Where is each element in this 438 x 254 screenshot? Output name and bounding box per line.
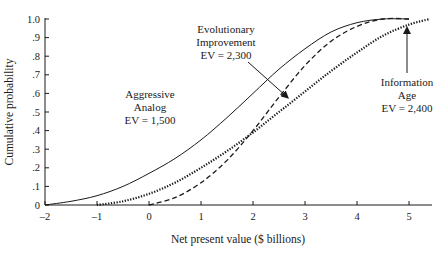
x-ticks: –2–1012345	[39, 201, 412, 222]
x-tick-label: –2	[39, 211, 51, 222]
annot-info-line1: Information	[381, 76, 434, 88]
x-axis-title: Net present value ($ billions)	[171, 233, 305, 246]
x-tick-label: 2	[250, 211, 255, 222]
x-tick-label: 4	[354, 211, 360, 222]
y-tick-label: .9	[32, 32, 40, 43]
y-tick-label: .8	[32, 51, 40, 62]
y-tick-label: .1	[32, 181, 40, 192]
y-tick-label: .6	[32, 88, 40, 99]
annot-agg-line1: Aggressive	[125, 88, 175, 100]
y-tick-label: .2	[32, 162, 40, 173]
x-tick-label: 0	[146, 211, 151, 222]
annotation-information-age: Information Age EV = 2,400	[381, 30, 434, 114]
x-tick-label: 5	[406, 211, 411, 222]
y-axis-title: Cumulative probability	[3, 58, 16, 165]
x-tick-label: 1	[198, 211, 203, 222]
annotation-evolutionary-improvement: Evolutionary Improvement EV = 2,300	[196, 23, 286, 96]
annotation-aggressive-analog: Aggressive Analog EV = 1,500	[125, 88, 176, 126]
y-tick-label: 0	[35, 200, 40, 211]
annot-evo-arrow-icon	[248, 62, 286, 96]
x-tick-label: –1	[91, 211, 103, 222]
annot-evo-line3: EV = 2,300	[201, 49, 252, 61]
cdf-chart: 0.1.2.3.4.5.6.7.8.91.0 –2–1012345 Cumula…	[0, 0, 438, 254]
annot-info-line3: EV = 2,400	[382, 102, 433, 114]
annot-info-line2: Age	[398, 89, 416, 101]
annot-agg-line2: Analog	[134, 101, 167, 113]
y-tick-label: .3	[32, 144, 40, 155]
annot-evo-line1: Evolutionary	[197, 23, 255, 35]
y-tick-label: .5	[32, 107, 40, 118]
annot-evo-line2: Improvement	[196, 36, 255, 48]
y-ticks: 0.1.2.3.4.5.6.7.8.91.0	[27, 14, 49, 211]
y-tick-label: .7	[32, 69, 40, 80]
y-tick-label: 1.0	[27, 14, 40, 25]
annot-agg-line3: EV = 1,500	[125, 114, 176, 126]
y-tick-label: .4	[32, 125, 41, 136]
x-tick-label: 3	[302, 211, 307, 222]
